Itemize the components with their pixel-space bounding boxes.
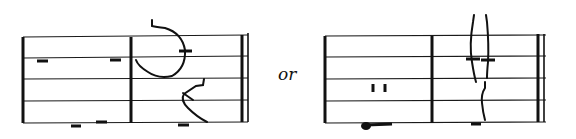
staff-lines [23,35,248,123]
alternative-separator-label: or [278,64,296,84]
curved-gesture-upper [136,20,185,77]
cross-mark [183,93,193,100]
vertical-gesture-right [486,15,488,78]
staff-system-left [23,20,248,126]
staff-system-right [325,15,546,130]
vertical-gesture-left [471,15,476,82]
staff-lines [325,35,546,123]
note-stem-horizontal [366,124,392,125]
wavy-gesture-lower [482,82,485,120]
